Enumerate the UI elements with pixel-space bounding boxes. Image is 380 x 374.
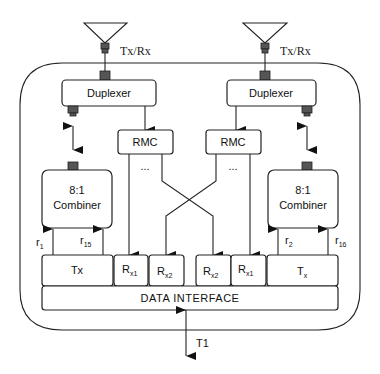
- combiner-left: 8:1 Combiner: [42, 170, 112, 228]
- input-label-r15: r15: [80, 234, 92, 248]
- input-label-r16: r16: [335, 234, 347, 248]
- antenna-left-label: Tx/Rx: [120, 44, 151, 58]
- antenna-right-icon: [243, 23, 287, 43]
- rmc-right: RMC: [206, 130, 261, 154]
- duplexer-combiner-link-right: [302, 106, 312, 170]
- module-rx2-left: Rx2: [149, 255, 184, 286]
- duplexer-left: Duplexer: [62, 80, 156, 106]
- module-rx1-right: Rx1: [231, 255, 266, 286]
- combiner-right: 8:1 Combiner: [268, 170, 338, 228]
- rmc-right-to-rx2-left: [166, 154, 216, 255]
- ellipsis-right: ...: [228, 160, 237, 172]
- duplexer-left-label: Duplexer: [87, 87, 131, 99]
- module-tx-right: Tx: [267, 255, 338, 286]
- duplexer-combiner-link-left: [68, 106, 78, 170]
- svg-text:Tx: Tx: [71, 264, 84, 276]
- data-interface: DATA INTERFACE: [42, 286, 338, 310]
- module-rx2-right: Rx2: [196, 255, 231, 286]
- module-rx1-left: Rx1: [114, 255, 148, 286]
- antenna-left-icon: [84, 23, 127, 43]
- input-label-r1: r1: [36, 236, 44, 250]
- rmc-left-to-rx2-right: [162, 154, 213, 255]
- combiner-left-line1: 8:1: [69, 184, 84, 196]
- rmc-left: RMC: [118, 130, 173, 154]
- rmc-right-label: RMC: [220, 136, 245, 148]
- module-tx-left: Tx: [42, 255, 113, 286]
- base-station-diagram: Tx/Rx Tx/Rx Duplexer Duplexer RMC: [0, 0, 380, 374]
- data-interface-label: DATA INTERFACE: [141, 292, 240, 304]
- duplexer-right: Duplexer: [227, 80, 316, 106]
- ellipsis-left: ...: [140, 160, 149, 172]
- combiner-left-line2: Combiner: [53, 199, 101, 211]
- t1-label: T1: [196, 337, 209, 349]
- rmc-left-label: RMC: [132, 136, 157, 148]
- input-label-r2: r2: [285, 234, 293, 248]
- combiner-right-line1: 8:1: [295, 184, 310, 196]
- duplexer-right-label: Duplexer: [249, 87, 293, 99]
- combiner-right-line2: Combiner: [279, 199, 327, 211]
- antenna-right-label: Tx/Rx: [280, 44, 311, 58]
